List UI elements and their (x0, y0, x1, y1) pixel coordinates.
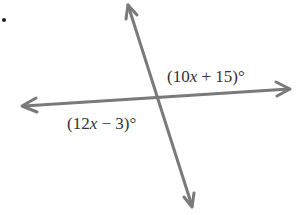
angle-label-upper-right: (10x + 15)° (167, 67, 245, 86)
transversal-line (128, 5, 192, 206)
intersecting-lines-diagram: (10x + 15)° (12x − 3)° (0, 0, 296, 215)
angle-label-lower-left: (12x − 3)° (67, 114, 136, 133)
